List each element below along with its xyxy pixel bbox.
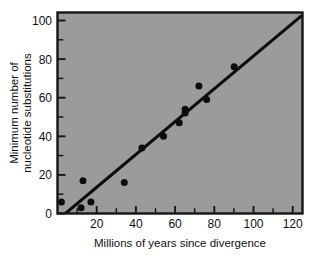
data-point: [58, 198, 65, 205]
data-point: [182, 106, 189, 113]
data-point: [138, 144, 145, 151]
x-tick-label: 100: [243, 217, 263, 231]
data-point: [87, 198, 94, 205]
x-tick-label: 40: [129, 217, 143, 231]
x-tick-label: 20: [90, 217, 104, 231]
data-point: [195, 83, 202, 90]
data-point: [121, 179, 128, 186]
data-point: [203, 96, 210, 103]
x-axis-title: Millions of years since divergence: [94, 237, 266, 249]
data-point: [78, 204, 85, 211]
y-tick-label: 80: [39, 53, 53, 67]
scatter-plot-figure: 20 40 60 80 100 120 0 20 40 60 80 100 Mi…: [0, 0, 315, 255]
data-point: [80, 177, 87, 184]
x-tick-label: 120: [283, 217, 303, 231]
y-axis-title-line1: Minimum number of: [8, 61, 20, 163]
y-tick-label: 40: [39, 130, 53, 144]
x-tick-label: 60: [168, 217, 182, 231]
y-tick-label: 100: [32, 14, 52, 28]
y-axis-title: Minimum number of nucleotide substitutio…: [8, 53, 33, 173]
y-tick-label: 20: [39, 168, 53, 182]
y-tick-label: 60: [39, 91, 53, 105]
y-axis-title-line2: nucleotide substitutions: [21, 53, 33, 173]
data-point: [160, 133, 167, 140]
y-tick-label: 0: [45, 207, 52, 221]
data-point: [231, 63, 238, 70]
plot-panel: [58, 13, 303, 214]
x-tick-label: 80: [208, 217, 222, 231]
data-point: [176, 119, 183, 126]
